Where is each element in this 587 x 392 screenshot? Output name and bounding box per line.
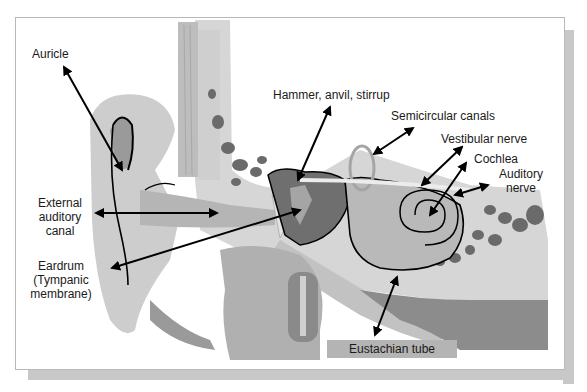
label-line: Auditory	[496, 167, 546, 181]
label-vestibular-nerve: Vestibular nerve	[441, 132, 527, 146]
arrow-ossicles	[298, 107, 330, 180]
label-line: External	[30, 196, 90, 210]
label-line: auditory	[30, 210, 90, 224]
label-semicircular-canals: Semicircular canals	[391, 109, 495, 123]
label-line: canal	[30, 224, 90, 238]
label-line: (Tympanic	[24, 273, 98, 287]
label-ossicles: Hammer, anvil, stirrup	[273, 88, 390, 102]
label-auricle: Auricle	[32, 47, 69, 61]
label-line: membrane)	[24, 287, 98, 301]
arrow-semicircular	[374, 128, 413, 154]
label-auditory-nerve: Auditory nerve	[496, 167, 546, 195]
label-eardrum: Eardrum (Tympanic membrane)	[24, 259, 98, 301]
label-external-auditory-canal: External auditory canal	[30, 196, 90, 238]
label-cochlea: Cochlea	[474, 152, 518, 166]
label-line: Eardrum	[24, 259, 98, 273]
label-line: nerve	[496, 181, 546, 195]
label-eustachian-tube: Eustachian tube	[327, 340, 457, 358]
